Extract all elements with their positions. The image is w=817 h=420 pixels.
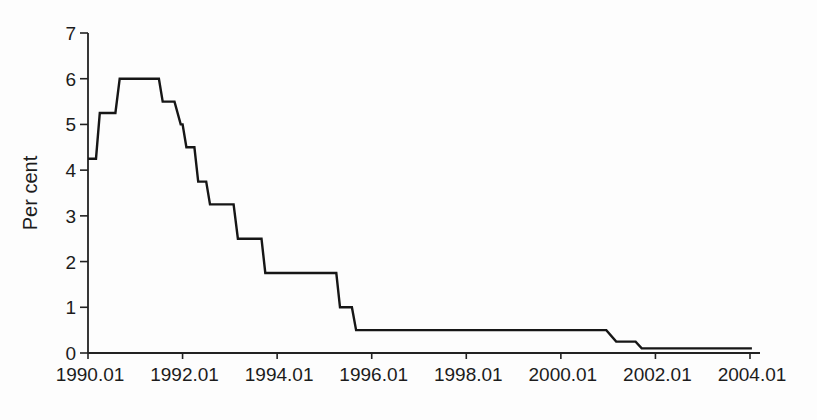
x-tick-label: 1990.01 <box>56 364 125 385</box>
x-tick-label: 2002.01 <box>623 364 692 385</box>
y-tick-label: 7 <box>65 23 76 44</box>
x-tick-label: 1992.01 <box>150 364 219 385</box>
figure-page: Per cent 1990.011992.011994.011996.01199… <box>0 0 817 420</box>
step-line-chart: Per cent 1990.011992.011994.011996.01199… <box>0 0 817 420</box>
y-tick-label: 4 <box>65 160 76 181</box>
y-axis-title: Per cent <box>19 155 41 230</box>
y-tick-label: 2 <box>65 252 76 273</box>
data-series <box>88 79 752 349</box>
x-tick-label: 2000.01 <box>529 364 598 385</box>
y-tick-label: 0 <box>65 343 76 364</box>
y-tick-label: 1 <box>65 297 76 318</box>
y-tick-label: 6 <box>65 69 76 90</box>
x-tick-label: 1994.01 <box>245 364 314 385</box>
y-axis-ticks: 01234567 <box>65 23 88 364</box>
axes <box>88 33 760 353</box>
x-tick-label: 2004.01 <box>718 364 787 385</box>
x-axis-ticks: 1990.011992.011994.011996.011998.012000.… <box>56 353 787 385</box>
x-tick-label: 1998.01 <box>434 364 503 385</box>
y-tick-label: 5 <box>65 114 76 135</box>
y-tick-label: 3 <box>65 206 76 227</box>
rate-step-line <box>88 79 752 349</box>
x-tick-label: 1996.01 <box>339 364 408 385</box>
